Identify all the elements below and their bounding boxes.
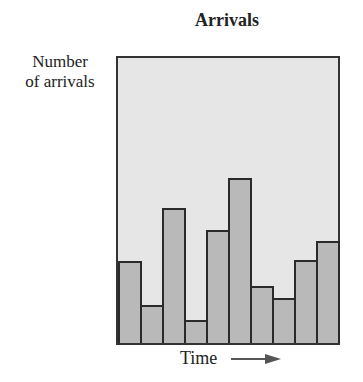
plot-area: [116, 56, 340, 345]
bar-1: [118, 261, 142, 343]
bar-4: [184, 320, 208, 343]
bar-9: [294, 260, 318, 343]
bar-7: [250, 286, 274, 343]
y-axis-label: Number of arrivals: [8, 52, 112, 92]
x-axis-label: Time: [180, 348, 281, 369]
y-axis-label-line1: Number: [8, 52, 112, 72]
bar-5: [206, 230, 230, 343]
bar-10: [316, 241, 340, 343]
bar-series: [118, 58, 338, 343]
x-axis-label-text: Time: [180, 348, 217, 369]
bar-8: [272, 298, 296, 343]
y-axis-label-line2: of arrivals: [8, 72, 112, 92]
bar-3: [162, 208, 186, 343]
bar-6: [228, 178, 252, 343]
chart-title: Arrivals: [116, 10, 338, 31]
arrow-right-icon: [231, 354, 281, 364]
bar-2: [140, 305, 164, 343]
